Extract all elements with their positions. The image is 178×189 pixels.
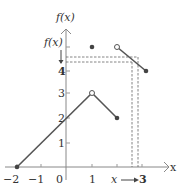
xtick-3: 3 <box>139 173 147 186</box>
y-arrow-label: f(x) <box>43 36 63 49</box>
ytick-4: 4 <box>58 65 66 78</box>
ytick-1: 1 <box>58 137 65 150</box>
xtick-neg2: −2 <box>3 173 19 186</box>
closed-point-1-5 <box>90 45 95 50</box>
x-axis-title: x <box>170 161 177 174</box>
function-segments <box>17 47 146 167</box>
x-arrow-label: x <box>111 173 118 186</box>
closed-point-3-4 <box>144 69 149 74</box>
arrow-down-icon <box>59 60 64 64</box>
xtick-0: 0 <box>56 173 63 186</box>
closed-point-2-2 <box>115 116 120 121</box>
xtick-neg1: −1 <box>28 173 44 186</box>
dashed-guides <box>66 57 138 167</box>
y-ticks <box>66 47 70 143</box>
xtick-1: 1 <box>89 173 96 186</box>
open-point-1-3 <box>90 91 95 96</box>
y-axis-title: f(x) <box>55 11 75 24</box>
ytick-3: 3 <box>58 87 65 100</box>
closed-point-neg2-0 <box>15 165 20 170</box>
piecewise-function-chart: f(x) f(x) 4 3 2 1 −2 −1 0 1 x 3 x <box>0 0 178 189</box>
open-point-2-5 <box>115 45 120 50</box>
